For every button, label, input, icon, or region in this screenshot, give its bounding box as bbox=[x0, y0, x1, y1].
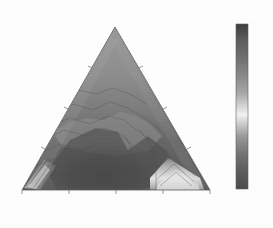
contour-field bbox=[22, 27, 210, 194]
colorbar[interactable] bbox=[236, 24, 248, 189]
figure-canvas bbox=[0, 0, 273, 228]
colorbar-gradient bbox=[236, 24, 248, 189]
ternary-plot bbox=[0, 0, 273, 228]
